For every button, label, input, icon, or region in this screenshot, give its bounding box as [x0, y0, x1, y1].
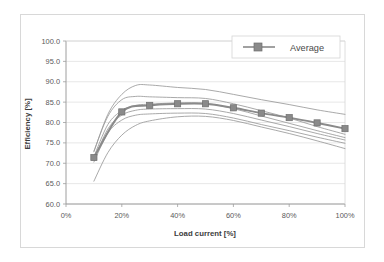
data-series-group	[94, 84, 345, 181]
x-axis-title: Load current [%]	[174, 229, 236, 238]
x-tick-label: 40%	[170, 211, 185, 220]
series-line-unit	[94, 116, 345, 181]
data-point-marker	[119, 109, 125, 115]
x-axis-tick-labels: 0%20%40%60%80%100%	[61, 211, 355, 220]
data-point-marker	[202, 101, 208, 107]
data-point-marker	[286, 115, 292, 121]
data-point-marker	[230, 105, 236, 111]
y-tick-label: 60.0	[46, 200, 60, 209]
x-tick-label: 100%	[336, 211, 355, 220]
legend-label-average: Average	[290, 43, 324, 53]
y-tick-label: 65.0	[46, 179, 60, 188]
y-tick-label: 85.0	[46, 98, 60, 107]
y-tick-label: 80.0	[46, 118, 60, 127]
legend-square-marker-icon	[254, 43, 262, 51]
x-tick-label: 60%	[226, 211, 241, 220]
data-point-marker	[314, 120, 320, 126]
y-tick-label: 90.0	[46, 77, 60, 86]
data-point-marker	[258, 110, 264, 116]
data-point-marker	[342, 126, 348, 132]
y-axis-tick-labels: 60.065.070.075.080.085.090.095.0100.0	[42, 37, 61, 209]
y-tick-label: 75.0	[46, 138, 60, 147]
y-tick-label: 100.0	[42, 37, 61, 46]
data-point-marker	[175, 101, 181, 107]
y-tick-label: 95.0	[46, 57, 60, 66]
y-axis-title: Efficiency [%]	[23, 98, 32, 150]
average-series-markers	[91, 101, 348, 161]
x-tick-label: 20%	[114, 211, 129, 220]
legend-box: Average	[232, 36, 340, 58]
data-point-marker	[147, 102, 153, 108]
x-tick-label: 80%	[282, 211, 297, 220]
data-point-marker	[91, 154, 97, 160]
chart-container: 60.065.070.075.080.085.090.095.0100.0 0%…	[0, 0, 384, 262]
x-tick-label: 0%	[61, 211, 72, 220]
y-tick-label: 70.0	[46, 159, 60, 168]
chart-plot-svg: 60.065.070.075.080.085.090.095.0100.0 0%…	[0, 0, 384, 262]
